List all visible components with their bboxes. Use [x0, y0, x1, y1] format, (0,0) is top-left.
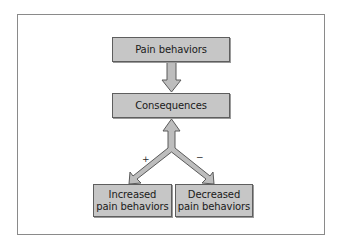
- node-pain-behaviors-label: Pain behaviors: [135, 44, 207, 56]
- minus-sign-label: −: [196, 153, 204, 162]
- node-decreased-line2: pain behaviors: [178, 201, 250, 213]
- node-consequences-label: Consequences: [135, 100, 207, 112]
- node-consequences: Consequences: [112, 93, 230, 118]
- node-increased-line2: pain behaviors: [96, 201, 168, 213]
- node-increased-pain-behaviors: Increased pain behaviors: [93, 184, 172, 217]
- node-increased-line1: Increased: [96, 189, 168, 201]
- plus-sign-label: +: [142, 155, 150, 164]
- node-decreased-pain-behaviors: Decreased pain behaviors: [175, 184, 253, 217]
- node-decreased-line1: Decreased: [178, 189, 250, 201]
- node-pain-behaviors: Pain behaviors: [112, 37, 230, 62]
